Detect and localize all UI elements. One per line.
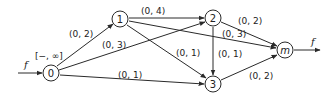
flow-network-diagram: f f (0, 2) (0, 3) (0, 1) (0, 4) (0, 1) (… <box>0 0 332 97</box>
node-2: 2 <box>205 10 221 26</box>
edge-label-1-2: (0, 4) <box>141 6 165 16</box>
edge-label-3-m: (0, 2) <box>249 71 273 81</box>
node-1: 1 <box>112 11 128 27</box>
node-m-label: m <box>280 45 290 56</box>
edge-label-1-3: (0, 1) <box>176 48 200 58</box>
node-3-label: 3 <box>210 79 216 90</box>
node-0: 0 <box>43 65 59 81</box>
edge-label-2-m: (0, 2) <box>238 16 262 26</box>
edge-label-0-1: (0, 2) <box>69 29 93 39</box>
node-2-label: 2 <box>210 13 216 24</box>
edge-label-0-3: (0, 1) <box>118 70 142 80</box>
sink-flow-label: f <box>310 36 317 47</box>
edge-label-2-3: (0, 1) <box>218 49 242 59</box>
node-0-label: 0 <box>48 68 54 79</box>
node-1-label: 1 <box>117 14 123 25</box>
edge-label-0-2: (0, 3) <box>102 40 126 50</box>
node-0-annotation: [−, ∞] <box>35 51 63 61</box>
source-flow-label: f <box>23 59 30 70</box>
node-3: 3 <box>205 76 221 92</box>
node-m: m <box>277 42 293 58</box>
edge-label-1-m: (0, 3) <box>222 29 246 39</box>
